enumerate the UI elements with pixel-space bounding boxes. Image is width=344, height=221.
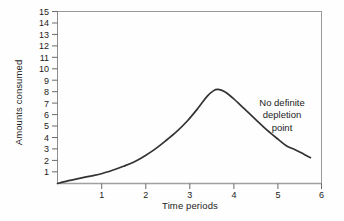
y-tick-label: 12 xyxy=(39,41,49,51)
x-axis-tick-labels: 1 2 3 4 5 6 xyxy=(99,190,324,200)
y-tick-label: 5 xyxy=(44,121,49,131)
chart-figure: 15 14 13 12 11 10 9 8 7 6 5 4 3 2 1 1 2 xyxy=(0,0,344,221)
y-tick-label: 11 xyxy=(40,53,49,63)
y-tick-label: 2 xyxy=(44,156,49,166)
x-tick-label: 4 xyxy=(231,190,236,200)
y-tick-label: 4 xyxy=(44,133,49,143)
y-tick-label: 7 xyxy=(44,99,49,109)
y-axis-ticks xyxy=(52,12,58,172)
y-tick-label: 10 xyxy=(39,64,49,74)
y-tick-label: 14 xyxy=(39,18,49,28)
y-axis-title: Amounts consumed xyxy=(13,48,24,158)
annotation-line: No definite xyxy=(243,97,321,109)
x-tick-label: 1 xyxy=(99,190,104,200)
y-tick-label: 9 xyxy=(44,76,49,86)
y-axis-tick-labels: 15 14 13 12 11 10 9 8 7 6 5 4 3 2 1 xyxy=(39,7,49,177)
y-tick-label: 8 xyxy=(44,87,49,97)
annotation-no-definite-depletion-point: No definite depletion point xyxy=(243,97,321,134)
y-tick-label: 3 xyxy=(44,144,49,154)
annotation-line: depletion xyxy=(243,109,321,121)
y-tick-label: 13 xyxy=(39,30,49,40)
x-axis-ticks xyxy=(102,184,322,190)
x-tick-label: 5 xyxy=(275,190,280,200)
x-tick-label: 3 xyxy=(187,190,192,200)
y-tick-label: 1 xyxy=(44,167,49,177)
x-tick-label: 2 xyxy=(143,190,148,200)
y-tick-label: 15 xyxy=(39,7,49,17)
y-tick-label: 6 xyxy=(44,110,49,120)
x-axis-title: Time periods xyxy=(57,200,323,211)
annotation-line: point xyxy=(243,122,321,134)
x-tick-label: 6 xyxy=(319,190,324,200)
